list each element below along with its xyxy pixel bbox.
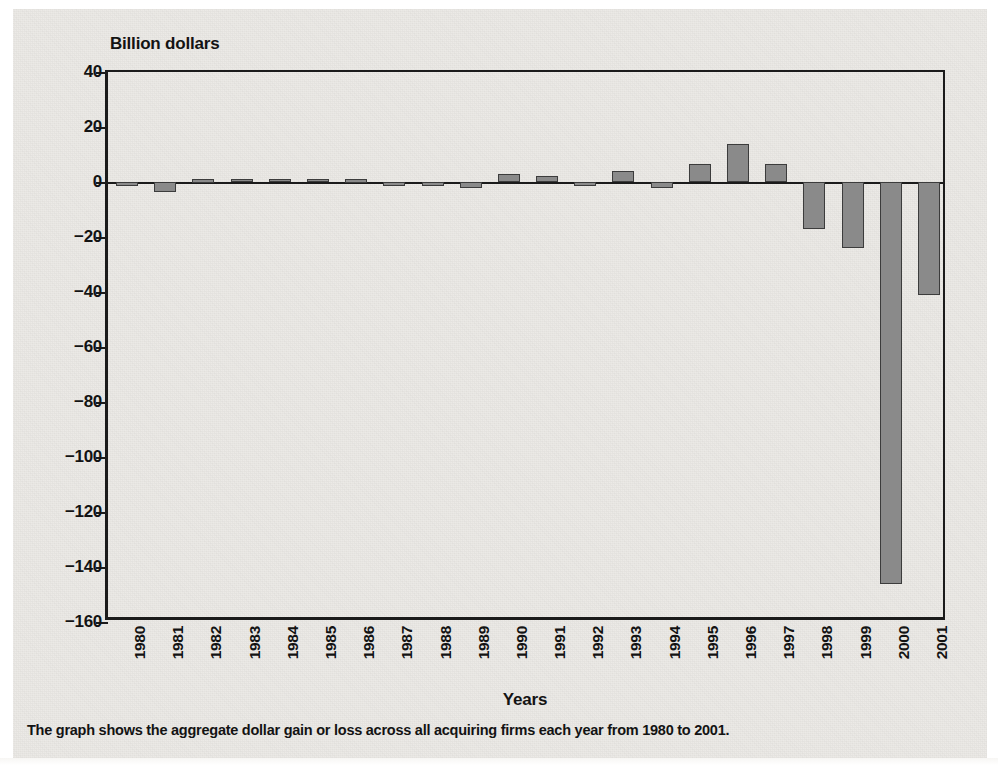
bar-1984 bbox=[269, 179, 291, 183]
bar-1981 bbox=[154, 182, 176, 192]
x-tick-label-1997: 1997 bbox=[780, 626, 798, 659]
x-tick-label-1996: 1996 bbox=[742, 626, 760, 659]
x-tick-label-1999: 1999 bbox=[857, 626, 875, 659]
bars-layer bbox=[108, 72, 943, 617]
x-tick-label-1987: 1987 bbox=[398, 626, 416, 659]
x-tick-label-1998: 1998 bbox=[818, 626, 836, 659]
x-tick-label-1989: 1989 bbox=[475, 626, 493, 659]
x-tick-label-1994: 1994 bbox=[666, 626, 684, 659]
x-tick-label-1990: 1990 bbox=[513, 626, 531, 659]
bar-1999 bbox=[842, 182, 864, 248]
bar-1991 bbox=[536, 176, 558, 182]
x-tick-label-1993: 1993 bbox=[627, 626, 645, 659]
bar-1995 bbox=[689, 164, 711, 182]
bar-1983 bbox=[231, 179, 253, 183]
x-tick-label-1995: 1995 bbox=[704, 626, 722, 659]
x-tick-label-2001: 2001 bbox=[933, 626, 951, 659]
bar-1992 bbox=[574, 182, 596, 186]
x-tick-label-1983: 1983 bbox=[246, 626, 264, 659]
bar-2000 bbox=[880, 182, 902, 584]
bar-1985 bbox=[307, 179, 329, 183]
bar-chart-figure: Billion dollars 40200−20−40−60−80−100−12… bbox=[0, 0, 998, 770]
bar-1993 bbox=[612, 171, 634, 182]
bar-1989 bbox=[460, 182, 482, 188]
x-tick-label-1991: 1991 bbox=[551, 626, 569, 659]
bar-1997 bbox=[765, 164, 787, 182]
y-tick-label: −60 bbox=[74, 337, 102, 357]
plot-area: 40200−20−40−60−80−100−120−140−160 bbox=[105, 70, 945, 620]
y-tick-label: −100 bbox=[65, 447, 102, 467]
bar-1986 bbox=[345, 179, 367, 183]
bar-1996 bbox=[727, 144, 749, 183]
y-tick-label: −20 bbox=[74, 227, 102, 247]
x-tick-label-2000: 2000 bbox=[895, 626, 913, 659]
scanned-page: Billion dollars 40200−20−40−60−80−100−12… bbox=[0, 0, 998, 770]
x-tick-label-1986: 1986 bbox=[360, 626, 378, 659]
x-tick-label-1988: 1988 bbox=[437, 626, 455, 659]
x-tick-label-1980: 1980 bbox=[131, 626, 149, 659]
y-tick-label: 0 bbox=[93, 172, 102, 192]
x-axis-tick-labels: 1980198119821983198419851986198719881989… bbox=[105, 626, 945, 694]
x-tick-label-1992: 1992 bbox=[589, 626, 607, 659]
bar-1998 bbox=[803, 182, 825, 229]
bar-1994 bbox=[651, 182, 673, 188]
y-tick-label: −160 bbox=[65, 612, 102, 632]
y-tick-label: −140 bbox=[65, 557, 102, 577]
bar-1990 bbox=[498, 174, 520, 182]
bar-2001 bbox=[918, 182, 940, 295]
x-tick-label-1985: 1985 bbox=[322, 626, 340, 659]
y-tick-label: −40 bbox=[74, 282, 102, 302]
bar-1987 bbox=[383, 182, 405, 186]
x-axis-title: Years bbox=[105, 690, 945, 710]
bar-1982 bbox=[192, 179, 214, 183]
y-tick-label: −120 bbox=[65, 502, 102, 522]
y-tick-label: −80 bbox=[74, 392, 102, 412]
y-axis-title: Billion dollars bbox=[110, 34, 219, 54]
bar-1988 bbox=[422, 182, 444, 186]
y-tick-label: 40 bbox=[84, 62, 102, 82]
y-tick-label: 20 bbox=[84, 117, 102, 137]
figure-caption: The graph shows the aggregate dollar gai… bbox=[27, 722, 973, 739]
x-tick-label-1982: 1982 bbox=[207, 626, 225, 659]
x-tick-label-1981: 1981 bbox=[169, 626, 187, 659]
bar-1980 bbox=[116, 182, 138, 186]
x-tick-label-1984: 1984 bbox=[284, 626, 302, 659]
